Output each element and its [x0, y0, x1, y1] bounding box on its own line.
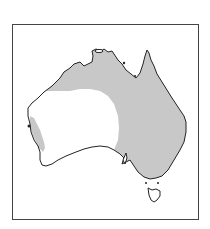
bass-strait-island: [145, 182, 147, 184]
bass-strait-island-2: [157, 182, 159, 184]
australia-distribution-map: [0, 0, 210, 229]
shark-bay-detail: [28, 125, 31, 128]
tasmania: [148, 188, 160, 202]
melville-island: [95, 49, 103, 52]
groote-island: [123, 62, 125, 64]
gulf-island: [134, 75, 136, 77]
